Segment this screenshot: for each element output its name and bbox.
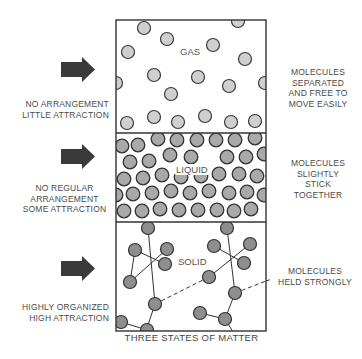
gas-right-label: MOLECULES SEPARATED AND FREE TO MOVE EAS… (278, 67, 358, 109)
right-arrow-icon (61, 144, 95, 169)
state-name-liquid: LIQUID (174, 164, 210, 175)
right-arrow-icon (61, 57, 95, 82)
liquid-left-label: NO REGULAR ARRANGEMENT SOME ATTRACTION (20, 183, 109, 215)
liquid-right-label: MOLECULES SLIGHTLY STICK TOGETHER (278, 158, 358, 200)
right-arrow-icon (61, 256, 95, 281)
solid-left-label: HIGHLY ORGANIZED HIGH ATTRACTION (22, 302, 109, 323)
solid-right-label: MOLECULES HELD STRONGLY (270, 266, 360, 287)
gas-left-label: NO ARRANGEMENT LITTLE ATTRACTION (22, 99, 109, 120)
state-name-gas: GAS (178, 46, 202, 57)
solid-lattice (115, 222, 267, 337)
diagram-caption: THREE STATES OF MATTER (116, 332, 267, 343)
state-name-solid: SOLID (176, 256, 209, 267)
gas-molecules (110, 15, 272, 130)
